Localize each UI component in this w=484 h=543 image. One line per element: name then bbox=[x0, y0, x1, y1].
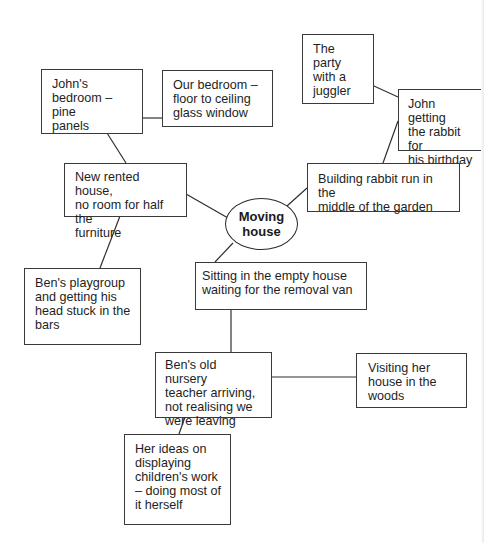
node-text: and getting his bbox=[35, 290, 132, 304]
node-rabbit-run: Building rabbit run in the middle of the… bbox=[307, 163, 460, 212]
node-text: Building rabbit run in the bbox=[318, 172, 451, 200]
node-john-rabbit: John getting the rabbit for his birthday bbox=[398, 89, 484, 151]
center-node-moving-house: Moving house bbox=[225, 198, 298, 250]
node-text: displaying bbox=[135, 456, 222, 470]
node-new-rented-house: New rented house, no room for half the f… bbox=[64, 163, 187, 217]
node-text: house in the bbox=[368, 375, 458, 389]
node-text: floor to ceiling bbox=[173, 92, 264, 106]
node-text: children's work bbox=[135, 470, 222, 484]
node-text: – doing most of bbox=[135, 484, 222, 498]
node-text: it herself bbox=[135, 498, 222, 512]
node-text: bars bbox=[35, 318, 132, 332]
node-party-juggler: The party with a juggler bbox=[302, 34, 374, 104]
node-text: glass window bbox=[173, 106, 264, 120]
center-text: house bbox=[239, 224, 285, 239]
node-her-ideas: Her ideas on displaying children's work … bbox=[124, 434, 231, 525]
node-text: the rabbit for bbox=[408, 125, 476, 153]
edge-center-rabbit-run bbox=[287, 188, 307, 206]
node-text: not realising we bbox=[165, 400, 257, 414]
edge-center-new-rented bbox=[186, 194, 228, 218]
node-text: John's bbox=[52, 77, 134, 91]
node-text: Our bedroom – bbox=[173, 78, 264, 92]
node-text: woods bbox=[368, 389, 458, 403]
node-john-bedroom: John's bedroom – pine panels bbox=[41, 69, 143, 134]
node-text: middle of the garden bbox=[318, 200, 451, 214]
edge-rabbit-run-john-rabbit bbox=[383, 121, 398, 163]
node-text: head stuck in the bbox=[35, 304, 132, 318]
center-text: Moving bbox=[239, 209, 285, 224]
node-text: teacher arriving, bbox=[165, 386, 257, 400]
node-text: Ben's playgroup bbox=[35, 276, 132, 290]
edge-new-rented-john-bedroom bbox=[107, 133, 126, 163]
node-text: juggler bbox=[313, 84, 365, 98]
node-visiting-house: Visiting her house in the woods bbox=[356, 353, 467, 408]
node-text: were leaving bbox=[165, 414, 263, 428]
node-nursery-teacher: Ben's old nursery teacher arriving, not … bbox=[155, 352, 272, 418]
node-empty-house: Sitting in the empty house waiting for t… bbox=[195, 262, 367, 310]
node-text: New rented house, bbox=[75, 170, 178, 198]
node-text: Visiting her bbox=[368, 361, 458, 375]
node-text: panels bbox=[52, 119, 134, 133]
edge-center-empty-house bbox=[215, 243, 233, 262]
node-text: with a bbox=[313, 70, 365, 84]
node-ben-playgroup: Ben's playgroup and getting his head stu… bbox=[24, 268, 141, 345]
node-our-bedroom: Our bedroom – floor to ceiling glass win… bbox=[162, 70, 273, 127]
node-text: Ben's old nursery bbox=[165, 358, 257, 386]
node-text: bedroom – pine bbox=[52, 91, 134, 119]
node-text: Her ideas on bbox=[135, 442, 222, 456]
node-text: The party bbox=[313, 42, 365, 70]
node-text: no room for half the bbox=[75, 198, 178, 226]
node-text: waiting for the removal van bbox=[202, 283, 358, 297]
node-text: furniture bbox=[75, 226, 178, 240]
node-text: Sitting in the empty house bbox=[202, 269, 358, 283]
node-text: John getting bbox=[408, 97, 476, 125]
